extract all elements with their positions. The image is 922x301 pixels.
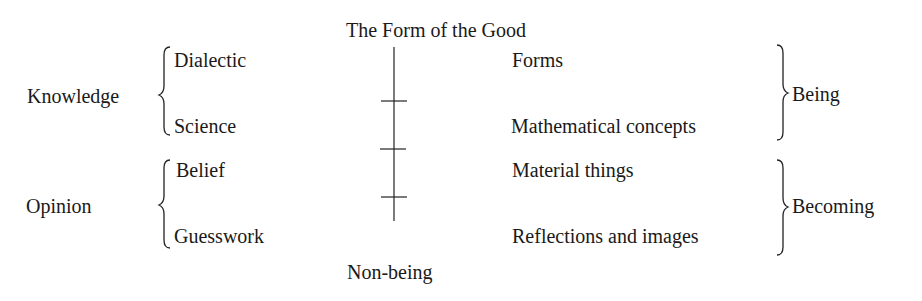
- item-material-things: Material things: [512, 160, 634, 180]
- bottom-label: Non-being: [347, 262, 433, 282]
- group-label-becoming: Becoming: [792, 196, 874, 216]
- group-label-being: Being: [792, 84, 840, 104]
- right-brace-becoming: [777, 160, 788, 255]
- left-brace-knowledge: [159, 47, 170, 135]
- item-guesswork: Guesswork: [174, 226, 264, 246]
- item-forms: Forms: [512, 50, 563, 70]
- diagram-lines: [0, 0, 922, 301]
- group-label-knowledge: Knowledge: [27, 86, 119, 106]
- right-brace-being: [777, 45, 788, 140]
- left-brace-opinion: [159, 160, 170, 248]
- item-belief: Belief: [176, 160, 225, 180]
- item-mathematical-concepts: Mathematical concepts: [511, 116, 696, 136]
- group-label-opinion: Opinion: [26, 196, 92, 216]
- item-dialectic: Dialectic: [174, 50, 246, 70]
- item-science: Science: [174, 116, 236, 136]
- top-label: The Form of the Good: [346, 20, 526, 40]
- item-reflections-and-images: Reflections and images: [512, 226, 699, 246]
